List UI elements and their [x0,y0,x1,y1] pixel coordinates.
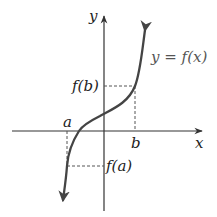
curve-label: y = f(x) [150,48,207,66]
function-graph: y x y = f(x) f(b) a b f(a) [0,0,217,217]
fb-label: f(b) [71,77,99,95]
a-label: a [63,113,72,131]
fa-label: f(a) [105,157,132,175]
x-axis-label: x [195,134,204,152]
b-label: b [131,134,141,152]
y-axis-label: y [88,7,98,25]
